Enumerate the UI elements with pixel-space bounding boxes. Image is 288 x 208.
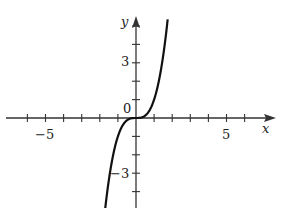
axes xyxy=(6,16,276,208)
y-tick-label-neg3: −3 xyxy=(110,166,129,181)
function-graph: y x 0 −5 5 3 −3 xyxy=(0,0,288,208)
x-tick-label-5: 5 xyxy=(222,127,230,142)
y-tick-label-3: 3 xyxy=(121,54,129,69)
y-axis-label: y xyxy=(120,14,129,29)
x-tick-label-neg5: −5 xyxy=(35,127,54,142)
origin-label: 0 xyxy=(123,101,131,116)
x-axis-label: x xyxy=(262,121,270,136)
